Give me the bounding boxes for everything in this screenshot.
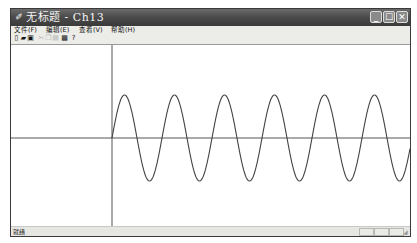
menu-help[interactable]: 帮助(H) [111, 26, 135, 34]
menu-view[interactable]: 查看(V) [79, 26, 103, 34]
status-pane [374, 228, 389, 236]
cut-icon[interactable]: ✂ [38, 35, 45, 42]
menu-bar: 文件(F) 编辑(E) 查看(V) 帮助(H) [11, 26, 410, 34]
status-text: 就绪 [13, 227, 25, 236]
new-icon[interactable]: ▯ [13, 35, 20, 42]
save-icon[interactable]: ▣ [27, 35, 34, 42]
paste-icon[interactable]: ▤ [52, 35, 59, 42]
close-button[interactable]: ✕ [396, 11, 408, 23]
status-pane [359, 228, 374, 236]
drawing-canvas[interactable] [11, 44, 410, 229]
sine-plot [11, 45, 410, 229]
resize-grip-icon[interactable]: ◢ [403, 229, 409, 235]
copy-icon[interactable]: ❐ [45, 35, 52, 42]
menu-file[interactable]: 文件(F) [14, 26, 37, 34]
menu-edit[interactable]: 编辑(E) [46, 26, 69, 34]
status-pane [389, 228, 404, 236]
maximize-button[interactable]: ☐ [383, 11, 395, 23]
open-icon[interactable]: ▰ [20, 35, 27, 42]
print-icon[interactable]: ▩ [61, 35, 68, 42]
app-window: ✐ 无标题 - Ch13 _ ☐ ✕ 文件(F) 编辑(E) 查看(V) 帮助(… [10, 8, 411, 237]
help-icon[interactable]: ? [70, 35, 77, 42]
app-icon[interactable]: ✐ [14, 12, 24, 22]
status-bar: 就绪 ◢ [11, 226, 410, 236]
minimize-button[interactable]: _ [370, 11, 382, 23]
window-title: 无标题 - Ch13 [26, 11, 104, 24]
title-bar[interactable]: ✐ 无标题 - Ch13 _ ☐ ✕ [11, 9, 410, 26]
